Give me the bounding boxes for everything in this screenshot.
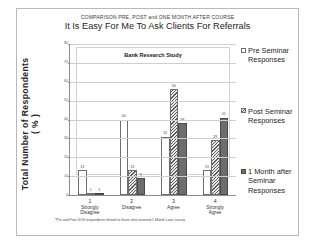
legend-item[interactable]: 1 Month after Seminar Responses <box>241 167 301 195</box>
bar-post: 13 <box>128 170 137 195</box>
y-axis-tickmark <box>68 157 70 158</box>
chart-title: It Is Easy For Me To Ask Clients For Ref… <box>16 21 299 31</box>
bar-pre: 13 <box>78 170 87 195</box>
y-axis-tickmark <box>68 63 70 64</box>
bar-month: 9 <box>137 178 146 195</box>
gridline <box>70 176 236 177</box>
gridline <box>70 44 236 45</box>
legend-swatch-icon <box>241 48 246 53</box>
y-axis-tickmark <box>68 44 70 45</box>
legend-item[interactable]: Pre Seminar Responses <box>241 46 301 65</box>
bar-value-label: 13 <box>130 166 134 170</box>
plot-canvas: Bank Research Study 13114013931563813294… <box>69 44 236 196</box>
x-axis-category-label: Disagree <box>111 205 153 211</box>
x-axis-category: 2Disagree <box>111 198 153 216</box>
chart-supertitle: COMPARISON PRE, POST and ONE MONTH AFTER… <box>16 14 299 20</box>
y-axis-tickmark <box>68 101 70 102</box>
x-axis-category: 3Agree <box>153 198 195 216</box>
bar-value-label: 13 <box>205 166 209 170</box>
gridline <box>70 101 236 102</box>
x-axis-category-label: StronglyDisagree <box>69 205 111 217</box>
y-axis-title: Total Number of Respondents( % ) <box>19 44 41 204</box>
bar-post: 56 <box>170 89 179 195</box>
legend-item[interactable]: Post Seminar Responses <box>241 107 301 126</box>
gridline <box>70 138 236 139</box>
bar-post: 29 <box>211 140 220 195</box>
x-axis-category-label: StronglyAgree <box>194 205 236 217</box>
chart-slide: COMPARISON PRE, POST and ONE MONTH AFTER… <box>0 0 315 250</box>
bar-value-label: 41 <box>222 113 226 117</box>
legend-label: 1 Month after Seminar Responses <box>248 167 301 195</box>
bar-month: 1 <box>95 193 104 195</box>
chart-footnote: *Pre and Post SOS respondents limited to… <box>55 218 185 222</box>
legend-label: Pre Seminar Responses <box>248 46 301 65</box>
bar-value-label: 56 <box>172 85 176 89</box>
y-axis-title-text: Total Number of Respondents( % ) <box>20 58 40 191</box>
gridline <box>70 82 236 83</box>
bar-value-label: 31 <box>163 132 167 136</box>
y-axis-tickmark <box>68 82 70 83</box>
gridline <box>70 120 236 121</box>
chart-titles: COMPARISON PRE, POST and ONE MONTH AFTER… <box>16 14 299 31</box>
plot-area: 01020304050607080 Bank Research Study 13… <box>57 44 236 196</box>
bar-value-label: 1 <box>98 189 100 193</box>
legend-swatch-icon <box>241 108 246 113</box>
y-axis-tickmark <box>68 176 70 177</box>
bar-post: 1 <box>87 193 96 195</box>
gridline <box>70 63 236 64</box>
gridline <box>70 157 236 158</box>
y-axis-tickmark <box>68 120 70 121</box>
x-axis-categories: 1StronglyDisagree2Disagree3Agree4Strongl… <box>69 198 236 216</box>
y-axis-tickmark <box>68 195 70 196</box>
x-axis-category: 4StronglyAgree <box>194 198 236 216</box>
y-axis-tickmark <box>68 138 70 139</box>
bar-value-label: 13 <box>80 166 84 170</box>
chart-legend: Pre Seminar ResponsesPost Seminar Respon… <box>241 46 301 195</box>
bar-value-label: 40 <box>122 115 126 119</box>
x-axis-category-label: Agree <box>153 205 195 211</box>
x-axis-category: 1StronglyDisagree <box>69 198 111 216</box>
bar-pre: 31 <box>161 137 170 196</box>
bar-value-label: 1 <box>90 189 92 193</box>
legend-label: Post Seminar Responses <box>248 107 301 126</box>
bar-pre: 13 <box>203 170 212 195</box>
bar-month: 38 <box>178 123 187 195</box>
legend-swatch-icon <box>241 169 246 174</box>
